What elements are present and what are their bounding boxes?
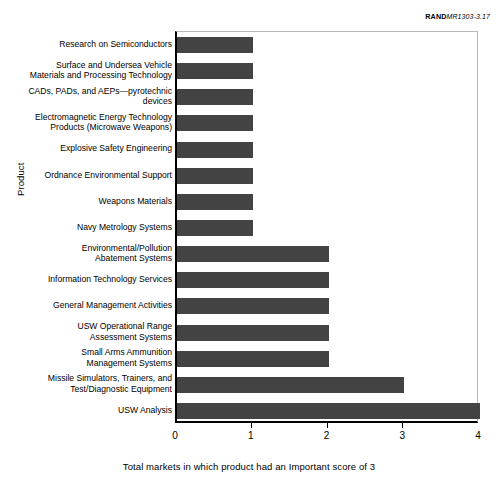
category-label: Navy Metrology Systems xyxy=(28,222,172,232)
x-axis-tick-labels: 01234 xyxy=(175,430,478,444)
category-label: Weapons Materials xyxy=(28,196,172,206)
category-label-line: Information Technology Services xyxy=(28,274,172,284)
bar-chart-figure: RANDMR1303-3.17 Product Research on Semi… xyxy=(0,0,498,488)
category-label-line: Materials and Processing Technology xyxy=(28,70,172,80)
x-tick-mark xyxy=(327,423,328,428)
category-label-line: Environmental/Pollution xyxy=(28,243,172,253)
bar xyxy=(177,351,329,367)
bar xyxy=(177,89,253,105)
category-label: CADs, PADs, and AEPs—pyrotechnicdevices xyxy=(28,86,172,107)
category-label-line: Weapons Materials xyxy=(28,196,172,206)
category-label-line: Abatement Systems xyxy=(28,253,172,263)
category-label: Small Arms AmmunitionManagement Systems xyxy=(28,347,172,368)
category-label-line: Test/Diagnostic Equipment xyxy=(28,384,172,394)
bar xyxy=(177,403,480,419)
category-label: Electromagnetic Energy TechnologyProduct… xyxy=(28,112,172,133)
x-tick-label: 4 xyxy=(475,430,481,442)
x-tick-label: 3 xyxy=(399,430,405,442)
x-axis-tick-marks xyxy=(175,423,478,429)
category-label: Environmental/PollutionAbatement Systems xyxy=(28,243,172,264)
category-label-line: Navy Metrology Systems xyxy=(28,222,172,232)
x-tick-mark xyxy=(402,423,403,428)
bar xyxy=(177,325,329,341)
category-label: Surface and Undersea VehicleMaterials an… xyxy=(28,60,172,81)
category-label-line: Management Systems xyxy=(28,358,172,368)
category-label: USW Analysis xyxy=(28,405,172,415)
category-label: Ordnance Environmental Support xyxy=(28,170,172,180)
plot-area xyxy=(175,31,478,423)
category-label-line: Assessment Systems xyxy=(28,332,172,342)
bar xyxy=(177,194,253,210)
x-tick-mark xyxy=(251,423,252,428)
x-axis-title: Total markets in which product had an Im… xyxy=(0,461,498,472)
bar xyxy=(177,220,253,236)
category-label: Information Technology Services xyxy=(28,274,172,284)
x-tick-label: 0 xyxy=(172,430,178,442)
category-label-line: USW Analysis xyxy=(28,405,172,415)
category-label-line: USW Operational Range xyxy=(28,321,172,331)
category-label-line: General Management Activities xyxy=(28,300,172,310)
bars-layer xyxy=(177,32,477,421)
category-label-line: devices xyxy=(28,96,172,106)
category-label-line: Missile Simulators, Trainers, and xyxy=(28,373,172,383)
category-label: USW Operational RangeAssessment Systems xyxy=(28,321,172,342)
source-credit-reference: MR1303-3.17 xyxy=(446,13,490,20)
category-label-line: Explosive Safety Engineering xyxy=(28,143,172,153)
bar xyxy=(177,272,329,288)
x-tick-label: 1 xyxy=(248,430,254,442)
category-label: General Management Activities xyxy=(28,300,172,310)
category-label: Missile Simulators, Trainers, andTest/Di… xyxy=(28,373,172,394)
bar xyxy=(177,63,253,79)
category-label-line: Electromagnetic Energy Technology xyxy=(28,112,172,122)
bar xyxy=(177,298,329,314)
bar xyxy=(177,246,329,262)
source-credit-brand: RAND xyxy=(425,12,446,21)
category-label-line: Research on Semiconductors xyxy=(28,39,172,49)
category-label-line: Small Arms Ammunition xyxy=(28,347,172,357)
category-label: Research on Semiconductors xyxy=(28,39,172,49)
y-axis-title: Product xyxy=(16,163,26,196)
category-label-line: Surface and Undersea Vehicle xyxy=(28,60,172,70)
bar xyxy=(177,168,253,184)
bar xyxy=(177,37,253,53)
bar xyxy=(177,115,253,131)
bar xyxy=(177,377,404,393)
category-axis-labels: Research on SemiconductorsSurface and Un… xyxy=(28,31,172,423)
bar xyxy=(177,142,253,158)
x-tick-label: 2 xyxy=(324,430,330,442)
category-label: Explosive Safety Engineering xyxy=(28,143,172,153)
category-label-line: CADs, PADs, and AEPs—pyrotechnic xyxy=(28,86,172,96)
category-label-line: Ordnance Environmental Support xyxy=(28,170,172,180)
category-label-line: Products (Microwave Weapons) xyxy=(28,122,172,132)
source-credit: RANDMR1303-3.17 xyxy=(425,13,490,20)
